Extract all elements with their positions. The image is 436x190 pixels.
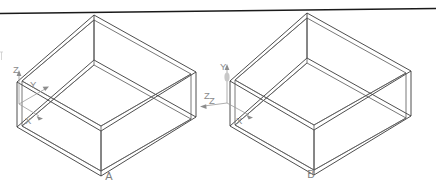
figure-a-axis-triad: Z Y X — [0, 52, 49, 126]
axis-label-y-a: Y — [30, 79, 37, 90]
axis-x-b: X — [227, 103, 253, 126]
axis-y-b: Y — [220, 61, 230, 103]
axis-label-y-b: Y — [220, 61, 227, 72]
figure-b-box — [230, 13, 411, 175]
figure-b: Y Z X B — [200, 13, 411, 180]
figure-a: Z Y X Z A — [0, 15, 210, 182]
axis-label-z-b: Z — [209, 95, 215, 106]
figure-caption-a: A — [105, 170, 113, 182]
figure-caption-b: B — [307, 168, 314, 180]
axis-label-z-a: Z — [13, 64, 19, 75]
cropped-edge-mark-a — [0, 52, 3, 60]
axis-label-x-b: X — [236, 115, 243, 126]
horizontal-rule — [0, 9, 436, 14]
diagram-canvas: Z Y X Z A — [0, 0, 436, 190]
figure-a-box — [17, 15, 196, 176]
axis-label-x-a: X — [25, 115, 32, 126]
